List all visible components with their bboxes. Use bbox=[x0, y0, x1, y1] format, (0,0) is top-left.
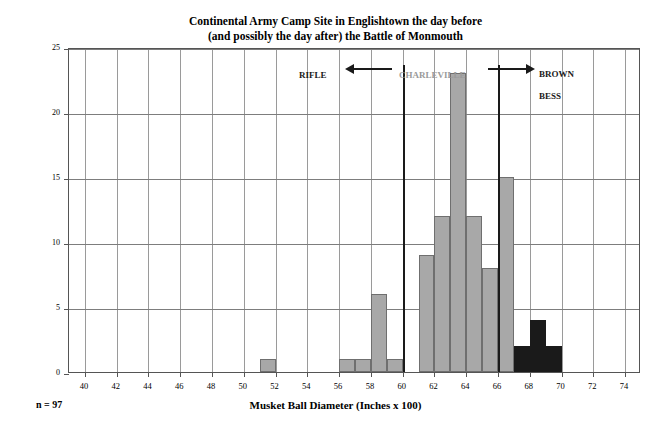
x-axis-tick-mark bbox=[593, 372, 594, 377]
chart-title-line-2: (and possibly the day after) the Battle … bbox=[0, 29, 671, 44]
vertical-gridline bbox=[276, 49, 277, 372]
rifle-arrow-line bbox=[354, 68, 392, 70]
y-axis-tick-label: 10 bbox=[16, 238, 60, 247]
annotation-charleville-label: CHARLEVILLE bbox=[399, 70, 466, 80]
x-axis-tick-mark bbox=[625, 372, 626, 377]
y-axis-tick-label: 25 bbox=[16, 43, 60, 52]
vertical-gridline bbox=[212, 49, 213, 372]
x-axis-tick-label: 58 bbox=[355, 381, 385, 391]
histogram-bar bbox=[514, 346, 530, 372]
x-axis-tick-mark bbox=[403, 372, 404, 377]
y-axis-tick-label: 15 bbox=[16, 173, 60, 182]
x-axis-tick-mark bbox=[434, 372, 435, 377]
x-axis-tick-label: 44 bbox=[132, 381, 162, 391]
brown-bess-arrow-head-icon bbox=[526, 64, 535, 74]
chart-title: Continental Army Camp Site in Englishtow… bbox=[0, 14, 671, 44]
histogram-bar bbox=[466, 216, 482, 372]
x-axis-tick-label: 64 bbox=[450, 381, 480, 391]
x-axis-tick-mark bbox=[212, 372, 213, 377]
x-axis-tick-label: 68 bbox=[514, 381, 544, 391]
annotation-brown-bess-line-2: BESS bbox=[539, 91, 574, 102]
histogram-bar bbox=[546, 346, 562, 372]
horizontal-gridline bbox=[69, 49, 639, 50]
x-axis-tick-mark bbox=[276, 372, 277, 377]
x-axis-tick-mark bbox=[498, 372, 499, 377]
brown-bess-arrow-line bbox=[488, 68, 526, 70]
x-axis-tick-mark bbox=[307, 372, 308, 377]
x-axis-tick-mark bbox=[244, 372, 245, 377]
vertical-gridline bbox=[625, 49, 626, 372]
histogram-bar bbox=[419, 255, 435, 372]
x-axis-tick-mark bbox=[180, 372, 181, 377]
x-axis-tick-mark bbox=[148, 372, 149, 377]
x-axis-tick-label: 52 bbox=[260, 381, 290, 391]
horizontal-gridline bbox=[69, 179, 639, 180]
x-axis-tick-label: 60 bbox=[387, 381, 417, 391]
histogram-bar bbox=[355, 359, 371, 372]
vertical-gridline bbox=[180, 49, 181, 372]
histogram-bar bbox=[434, 216, 450, 372]
x-axis-tick-label: 42 bbox=[101, 381, 131, 391]
x-axis-tick-mark bbox=[371, 372, 372, 377]
x-axis-tick-label: 62 bbox=[418, 381, 448, 391]
y-axis-tick-mark bbox=[64, 309, 69, 310]
y-axis-tick-mark bbox=[64, 179, 69, 180]
histogram-bar bbox=[498, 177, 514, 372]
histogram-bar bbox=[260, 359, 276, 372]
y-axis-tick-mark bbox=[64, 114, 69, 115]
x-axis-tick-label: 72 bbox=[577, 381, 607, 391]
vertical-gridline bbox=[339, 49, 340, 372]
annotation-rifle: RIFLE bbox=[299, 59, 327, 81]
x-axis-tick-label: 48 bbox=[196, 381, 226, 391]
group-divider-brown-bess bbox=[498, 65, 500, 372]
y-axis-tick-label: 20 bbox=[16, 108, 60, 117]
x-axis-tick-label: 46 bbox=[164, 381, 194, 391]
horizontal-gridline bbox=[69, 244, 639, 245]
histogram-bar bbox=[530, 320, 546, 372]
annotation-brown-bess: BROWN BESS bbox=[539, 58, 574, 113]
annotation-charleville: CHARLEVILLE bbox=[399, 59, 466, 81]
annotation-brown-bess-line-1: BROWN bbox=[539, 69, 574, 80]
y-axis-tick-mark bbox=[64, 244, 69, 245]
x-axis-tick-label: 50 bbox=[228, 381, 258, 391]
x-axis-tick-mark bbox=[466, 372, 467, 377]
x-axis-tick-mark bbox=[339, 372, 340, 377]
chart-title-line-1: Continental Army Camp Site in Englishtow… bbox=[0, 14, 671, 29]
histogram-bar bbox=[339, 359, 355, 372]
x-axis-tick-mark bbox=[117, 372, 118, 377]
horizontal-gridline bbox=[69, 114, 639, 115]
histogram-bar bbox=[482, 268, 498, 372]
vertical-gridline bbox=[148, 49, 149, 372]
x-axis-tick-mark bbox=[530, 372, 531, 377]
x-axis-tick-mark bbox=[562, 372, 563, 377]
vertical-gridline bbox=[85, 49, 86, 372]
x-axis-tick-label: 70 bbox=[546, 381, 576, 391]
vertical-gridline bbox=[117, 49, 118, 372]
x-axis-tick-label: 56 bbox=[323, 381, 353, 391]
horizontal-gridline bbox=[69, 309, 639, 310]
histogram-bar bbox=[371, 294, 387, 372]
x-axis-tick-label: 66 bbox=[482, 381, 512, 391]
vertical-gridline bbox=[593, 49, 594, 372]
x-axis-tick-label: 40 bbox=[69, 381, 99, 391]
x-axis-tick-label: 74 bbox=[609, 381, 639, 391]
histogram-bar bbox=[450, 73, 466, 372]
vertical-gridline bbox=[244, 49, 245, 372]
x-axis-label: Musket Ball Diameter (Inches x 100) bbox=[0, 399, 671, 411]
x-axis-tick-label: 54 bbox=[291, 381, 321, 391]
group-divider-rifle bbox=[403, 65, 405, 372]
vertical-gridline bbox=[307, 49, 308, 372]
annotation-rifle-label: RIFLE bbox=[299, 70, 327, 80]
x-axis-tick-mark bbox=[85, 372, 86, 377]
histogram-bar bbox=[387, 359, 403, 372]
plot-area: RIFLE CHARLEVILLE BROWN BESS bbox=[68, 48, 640, 373]
rifle-arrow-head-icon bbox=[345, 64, 354, 74]
y-axis-tick-label: 0 bbox=[16, 368, 60, 377]
sample-size-label: n = 97 bbox=[36, 399, 62, 410]
y-axis-tick-label: 5 bbox=[16, 303, 60, 312]
y-axis-tick-mark bbox=[64, 374, 69, 375]
y-axis-tick-mark bbox=[64, 49, 69, 50]
chart-page: Continental Army Camp Site in Englishtow… bbox=[0, 0, 671, 427]
